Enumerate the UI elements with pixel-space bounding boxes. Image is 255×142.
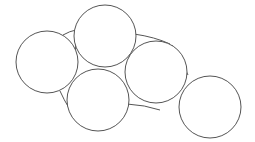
circle-3 bbox=[67, 69, 129, 131]
circle-1 bbox=[16, 31, 78, 93]
circle-5 bbox=[179, 76, 241, 138]
diagram-canvas bbox=[0, 0, 255, 142]
circles-group bbox=[16, 5, 241, 138]
circle-cluster-diagram bbox=[0, 0, 255, 142]
arc-3-4 bbox=[127, 104, 160, 110]
circle-2 bbox=[74, 5, 136, 67]
circle-4 bbox=[125, 41, 187, 103]
